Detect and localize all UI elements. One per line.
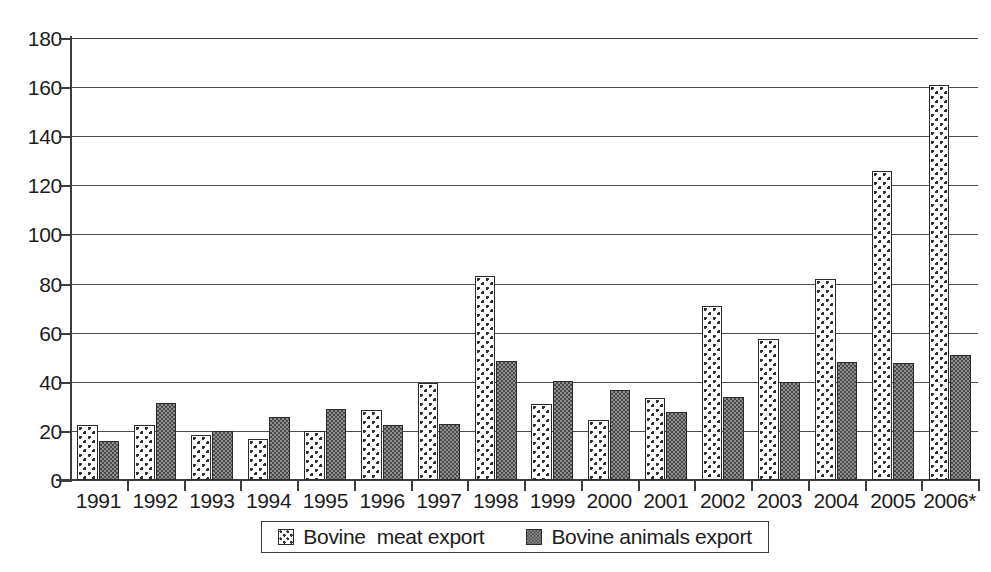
bar-chart: 020406080100120140160180 199119921993199… [0, 0, 991, 572]
bar [893, 363, 914, 480]
x-axis-category-label: 2001 [643, 489, 688, 513]
x-axis-category-label: 1992 [133, 489, 178, 513]
bar [780, 382, 801, 480]
x-axis-category-label: 1994 [246, 489, 291, 513]
bar [99, 441, 120, 480]
x-axis-category-label: 1998 [473, 489, 518, 513]
y-axis-tick-label: 160 [2, 77, 62, 98]
y-axis-tick-mark [59, 431, 71, 433]
x-axis-category-label: 1999 [530, 489, 575, 513]
x-axis-category-label: 1991 [76, 489, 121, 513]
bar [610, 390, 631, 480]
x-axis-tick-mark [978, 480, 980, 491]
bar [645, 398, 666, 480]
bar [326, 409, 347, 480]
y-axis-tick-mark [59, 136, 71, 138]
bars-layer [70, 38, 978, 480]
chart-legend: Bovine meat export Bovine animals export [261, 521, 769, 553]
bar [77, 425, 98, 480]
bar [212, 431, 233, 480]
bar [496, 361, 517, 480]
y-axis-tick-mark [59, 185, 71, 187]
legend-label: Bovine animals export [551, 526, 751, 548]
y-axis-tick-mark [59, 382, 71, 384]
x-axis-category-label: 2000 [587, 489, 632, 513]
bar [702, 306, 723, 480]
bar [304, 431, 325, 480]
y-axis-tick-label: 20 [2, 420, 62, 441]
y-axis-tick-labels: 020406080100120140160180 [0, 0, 62, 500]
x-axis-category-label: 2004 [814, 489, 859, 513]
x-axis-category-label: 2002 [700, 489, 745, 513]
y-axis-tick-label: 40 [2, 371, 62, 392]
bar [383, 425, 404, 480]
legend-item-bovine-meat-export: Bovine meat export [278, 526, 484, 548]
bar [269, 417, 290, 480]
bar [439, 424, 460, 480]
y-axis-tick-label: 100 [2, 224, 62, 245]
x-axis-category-label: 1995 [303, 489, 348, 513]
x-axis-category-label: 2005 [870, 489, 915, 513]
bar [156, 403, 177, 480]
bar [815, 279, 836, 480]
legend-item-bovine-animals-export: Bovine animals export [526, 526, 751, 548]
bar [723, 397, 744, 480]
bar [475, 276, 496, 480]
x-axis-category-label: 2006* [923, 489, 976, 513]
bar [418, 383, 439, 480]
x-axis-category-label: 1997 [416, 489, 461, 513]
y-axis-tick-label: 120 [2, 175, 62, 196]
y-axis-tick-mark [59, 38, 71, 40]
x-axis-category-label: 2003 [757, 489, 802, 513]
bar [872, 171, 893, 480]
bar [248, 439, 269, 480]
y-axis-tick-label: 80 [2, 273, 62, 294]
x-axis-category-labels: 1991199219931994199519961997199819992000… [70, 489, 978, 517]
x-axis-category-label: 1993 [189, 489, 234, 513]
bar [929, 85, 950, 480]
bar [361, 410, 382, 480]
y-axis-tick-label: 140 [2, 126, 62, 147]
checkered-dark-swatch-icon [526, 529, 542, 545]
bar [950, 355, 971, 480]
y-axis-tick-mark [59, 234, 71, 236]
bar [531, 404, 552, 480]
x-axis-category-label: 1996 [360, 489, 405, 513]
bar [666, 412, 687, 480]
bar [553, 381, 574, 480]
y-axis-tick-mark [59, 284, 71, 286]
y-axis-tick-label: 60 [2, 322, 62, 343]
legend-label: Bovine meat export [303, 526, 484, 548]
bar [758, 339, 779, 480]
y-axis-tick-label: 180 [2, 28, 62, 49]
y-axis-tick-mark [59, 480, 71, 482]
bar [588, 420, 609, 480]
bar [837, 362, 858, 480]
dotted-light-swatch-icon [278, 529, 294, 545]
bar [191, 435, 212, 480]
y-axis-tick-mark [59, 333, 71, 335]
y-axis-tick-label: 0 [2, 470, 62, 491]
bar [134, 425, 155, 480]
y-axis-tick-mark [59, 87, 71, 89]
